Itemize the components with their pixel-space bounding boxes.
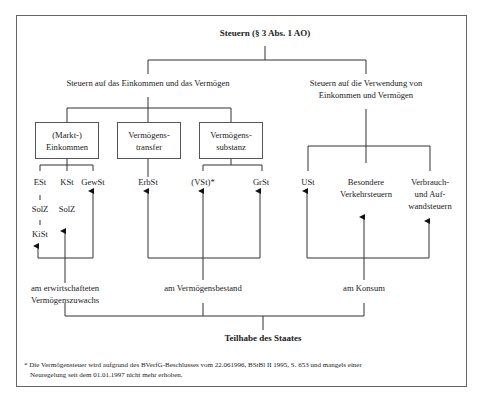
tax-vst: (VSt)* — [183, 177, 223, 188]
tax-erbst: ErbSt — [130, 177, 166, 188]
right-branch-label-1: Steuern auf die Verwendung von — [300, 78, 432, 89]
base-zuwachs-1: am erwirtschafteten — [20, 283, 110, 294]
left-branch-label: Steuern auf das Einkommen und das Vermög… — [48, 78, 248, 89]
tax-gewst: GewSt — [76, 177, 110, 188]
base-bestand: am Vermögensbestand — [150, 283, 256, 294]
right-branch-label-2: Einkommen und Vermögen — [300, 90, 432, 101]
box-markt-einkommen: (Markt-)Einkommen — [35, 122, 99, 159]
tax-verkehr-2: Verkehrsteuern — [331, 189, 401, 200]
tax-verbrauch-1: Verbrauch- — [403, 177, 457, 188]
bottom-label: Teilhabe des Staates — [213, 333, 313, 344]
box-vermoegenssubstanz: Vermögens-substanz — [199, 122, 263, 159]
tax-verkehr-1: Besondere — [331, 177, 401, 188]
tax-verbrauch-3: wandsteuern — [403, 201, 457, 212]
tax-ust: USt — [293, 177, 323, 188]
footnote-line-2: Neuregelung seit dem 01.01.1997 nicht me… — [24, 370, 464, 380]
base-zuwachs-2: Vermögenszuwachs — [20, 295, 110, 306]
box-line: transfer — [136, 142, 162, 152]
tax-verbrauch-2: und Auf- — [403, 189, 457, 200]
footnote-line-1: * Die Vermögensteuer wird aufgrund des B… — [24, 360, 464, 370]
tax-grst: GrSt — [245, 177, 277, 188]
box-line: substanz — [216, 142, 246, 152]
box-line: (Markt-) — [52, 130, 82, 140]
box-vermoegenstransfer: Vermögens-transfer — [117, 122, 181, 159]
tax-solz-2: SolZ — [52, 204, 82, 215]
box-line: Vermögens- — [210, 130, 252, 140]
tax-kist: KiSt — [25, 229, 55, 240]
box-line: Einkommen — [46, 142, 88, 152]
box-line: Vermögens- — [128, 130, 170, 140]
tax-est: ESt — [25, 177, 55, 188]
diagram-title: Steuern (§ 3 Abs. 1 AO) — [205, 28, 325, 39]
footnote: * Die Vermögensteuer wird aufgrund des B… — [24, 360, 464, 380]
tax-solz-1: SolZ — [25, 204, 55, 215]
base-konsum: am Konsum — [330, 283, 398, 294]
